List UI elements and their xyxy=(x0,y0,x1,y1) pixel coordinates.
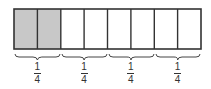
numerator: 1 xyxy=(74,62,94,72)
numerator: 1 xyxy=(121,62,141,72)
cell-2-shaded xyxy=(37,9,60,49)
denominator: 4 xyxy=(121,75,141,85)
fraction-label-4: 1 4 xyxy=(168,62,188,85)
fraction-label-2: 1 4 xyxy=(74,62,94,85)
fraction-bar xyxy=(14,9,201,49)
cell-1-shaded xyxy=(14,9,37,49)
denominator: 4 xyxy=(27,75,47,85)
fraction-label-1: 1 4 xyxy=(27,62,47,85)
brace-1 xyxy=(15,54,60,60)
denominator: 4 xyxy=(168,75,188,85)
fraction-label-3: 1 4 xyxy=(121,62,141,85)
numerator: 1 xyxy=(27,62,47,72)
brace-3 xyxy=(109,54,154,60)
braces xyxy=(15,54,200,60)
denominator: 4 xyxy=(74,75,94,85)
numerator: 1 xyxy=(168,62,188,72)
brace-2 xyxy=(62,54,107,60)
brace-4 xyxy=(156,54,200,60)
